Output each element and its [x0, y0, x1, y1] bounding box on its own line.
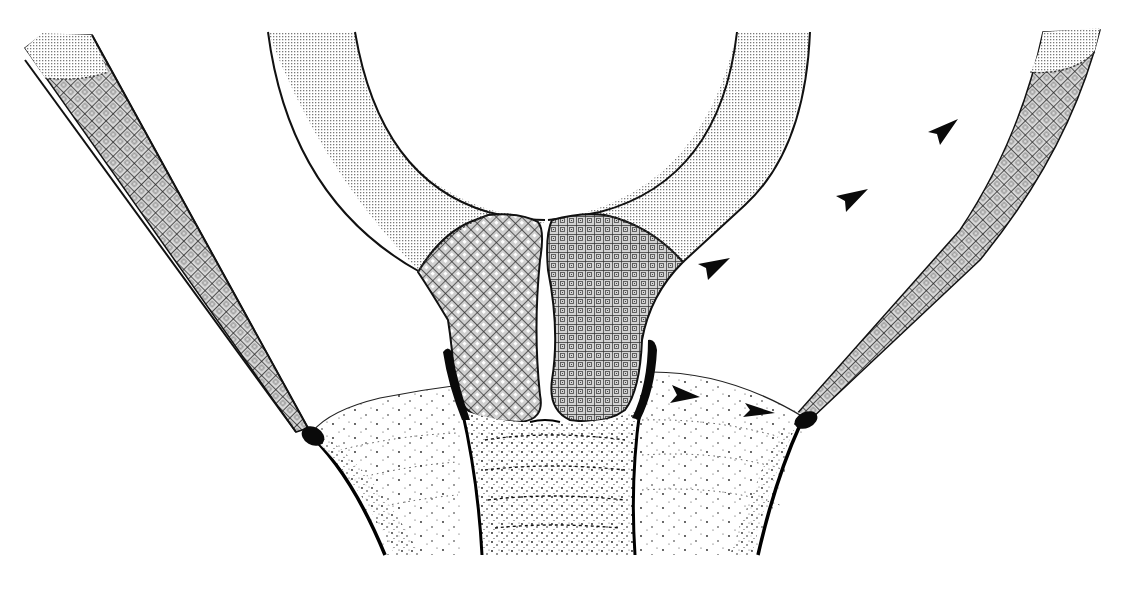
figure-canvas — [0, 0, 1130, 591]
arrowhead-icon — [928, 119, 958, 145]
left-band — [25, 33, 308, 432]
central-stem — [462, 410, 640, 555]
arrowhead-icon — [836, 189, 868, 212]
arrowhead-icon — [698, 258, 730, 280]
right-band — [795, 28, 1100, 420]
anatomical-diagram — [0, 0, 1130, 591]
